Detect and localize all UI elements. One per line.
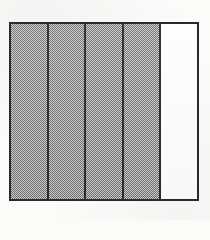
fraction-cell-3 (86, 24, 124, 199)
fraction-bar-diagram (9, 22, 199, 201)
fraction-cell-4 (124, 24, 162, 199)
fraction-cell-5 (161, 24, 197, 199)
fraction-cell-1 (11, 24, 49, 199)
fraction-cell-2 (49, 24, 87, 199)
